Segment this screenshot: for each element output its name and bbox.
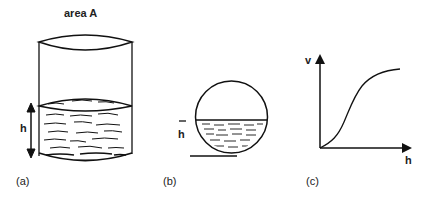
height-arrow-a [27, 103, 35, 158]
caption-c: (c) [306, 176, 319, 187]
volume-curve [320, 69, 400, 148]
cylinder-tank [39, 35, 132, 161]
area-a-title: area A [64, 8, 97, 19]
y-axis-arrow-icon [315, 54, 325, 64]
caption-a: (a) [16, 176, 29, 187]
x-axis-arrow-icon [402, 143, 412, 153]
sphere-outline [196, 81, 268, 153]
caption-b: (b) [163, 176, 176, 187]
cylinder-top-ellipse [39, 35, 132, 50]
liquid-hatching [44, 100, 126, 155]
spherical-tank [179, 81, 268, 156]
height-label-a: h [20, 123, 27, 134]
x-axis-label: h [405, 155, 412, 166]
volume-height-graph [315, 54, 412, 153]
y-axis-label: v [305, 55, 311, 66]
diagram-canvas [0, 0, 433, 197]
liquid-surface [39, 99, 132, 111]
height-label-b: h [178, 129, 185, 140]
